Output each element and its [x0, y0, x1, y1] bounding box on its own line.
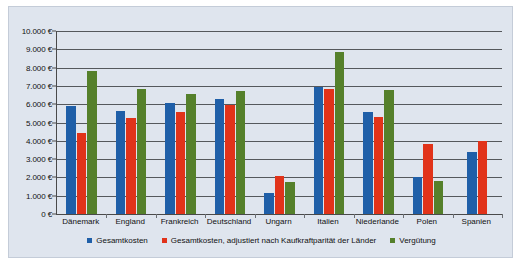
y-axis-tick-label: 0 €	[41, 210, 52, 219]
plot-area	[56, 31, 502, 215]
bar	[275, 176, 285, 214]
bar	[374, 117, 384, 214]
x-axis-tick-label: Frankreich	[161, 217, 199, 226]
x-axis-tick-mark	[502, 214, 503, 218]
chart-figure: 0 €1.000 €2.000 €3.000 €4.000 €5.000 €6.…	[8, 6, 513, 258]
legend-swatch-icon	[390, 238, 395, 243]
legend-item[interactable]: Gesamtkosten	[87, 236, 148, 245]
bar	[413, 177, 423, 214]
x-axis-tick-label: Spanien	[462, 217, 491, 226]
bar	[335, 52, 345, 214]
y-axis: 0 €1.000 €2.000 €3.000 €4.000 €5.000 €6.…	[9, 31, 52, 215]
bar	[467, 152, 477, 214]
legend-label: Gesamtkosten	[96, 236, 148, 245]
bar-group	[453, 31, 502, 214]
legend-swatch-icon	[162, 238, 167, 243]
bar	[236, 91, 246, 214]
y-axis-tick-label: 7.000 €	[26, 81, 52, 90]
bar	[176, 112, 186, 214]
chart-legend: GesamtkostenGesamtkosten, adjustiert nac…	[9, 236, 514, 245]
y-axis-tick-label: 5.000 €	[26, 118, 52, 127]
bar	[225, 105, 235, 214]
bar	[324, 89, 334, 214]
y-axis-tick-label: 6.000 €	[26, 100, 52, 109]
legend-swatch-icon	[87, 238, 92, 243]
x-axis-tick-label: Dänemark	[62, 217, 99, 226]
y-axis-tick-label: 9.000 €	[26, 45, 52, 54]
x-axis-tick-label: Italien	[317, 217, 338, 226]
y-axis-tick-label: 3.000 €	[26, 155, 52, 164]
legend-label: Vergütung	[399, 236, 435, 245]
bar-group	[403, 31, 452, 214]
bar	[137, 89, 147, 214]
x-axis-tick-label: Ungarn	[265, 217, 291, 226]
bar	[264, 193, 274, 214]
legend-item[interactable]: Vergütung	[390, 236, 435, 245]
bar	[384, 90, 394, 214]
bar-group	[354, 31, 403, 214]
bar	[478, 141, 488, 214]
bar	[165, 103, 175, 214]
bar	[66, 106, 76, 214]
bar	[314, 87, 324, 214]
bar-group	[156, 31, 205, 214]
bar-group	[106, 31, 155, 214]
bar	[77, 133, 87, 214]
bar	[116, 111, 126, 214]
y-axis-tick-label: 8.000 €	[26, 63, 52, 72]
x-axis-tick-label: England	[115, 217, 144, 226]
x-axis-tick-label: Niederlande	[356, 217, 399, 226]
y-axis-tick-label: 1.000 €	[26, 191, 52, 200]
y-axis-tick-label: 4.000 €	[26, 136, 52, 145]
x-axis-tick-label: Polen	[417, 217, 437, 226]
bar-group	[57, 31, 106, 214]
bar-group	[255, 31, 304, 214]
bar	[126, 118, 136, 214]
bar	[363, 112, 373, 214]
bar	[186, 94, 196, 214]
bar	[434, 181, 444, 214]
bar	[215, 99, 225, 214]
bar-group	[205, 31, 254, 214]
legend-item[interactable]: Gesamtkosten, adjustiert nach Kaufkraftp…	[162, 236, 376, 245]
y-axis-tick-label: 2.000 €	[26, 173, 52, 182]
bar	[285, 182, 295, 214]
bar-group	[304, 31, 353, 214]
bar	[423, 144, 433, 214]
y-axis-tick-label: 10.000 €	[22, 27, 52, 36]
x-axis: DänemarkEnglandFrankreichDeutschlandUnga…	[56, 217, 502, 231]
legend-label: Gesamtkosten, adjustiert nach Kaufkraftp…	[171, 236, 376, 245]
bar	[87, 71, 97, 214]
x-axis-tick-label: Deutschland	[207, 217, 251, 226]
